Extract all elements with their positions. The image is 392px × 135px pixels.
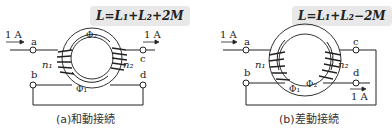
terminal-d: d: [353, 67, 360, 78]
caption-additive: (a)和動接続: [56, 110, 115, 126]
flux-phi1-label: Φ₁: [289, 84, 300, 94]
panel-additive-connection: L=L₁+L₂+2M: [0, 0, 193, 135]
terminal-b: b: [31, 69, 37, 80]
terminal-c: c: [353, 36, 359, 47]
terminal-d: d: [140, 69, 147, 80]
coil-n2-label: n₂: [123, 59, 133, 70]
terminal-c: c: [140, 53, 146, 64]
flux-phi1-label: Φ₁: [76, 84, 87, 94]
current-out-label: 1 A: [144, 29, 162, 40]
flux-phi2-label: Φ₂: [306, 79, 317, 89]
flux-phi2-label: Φ₂: [86, 30, 97, 40]
caption-differential: (b)差動接続: [279, 110, 339, 126]
coil-n1-label: n₁: [255, 59, 265, 70]
current-out-label: 1 A: [351, 91, 369, 102]
current-in-label: 1 A: [5, 29, 23, 40]
current-in-label: 1 A: [220, 29, 238, 40]
coil-n1-label: n₁: [42, 59, 52, 70]
terminal-a: a: [244, 36, 250, 47]
panel-differential-connection: L=L₁+L₂−2M 1 A 1: [193, 0, 386, 135]
terminal-b: b: [244, 67, 250, 78]
coil-n2-label: n₂: [338, 59, 348, 70]
terminal-a: a: [31, 36, 37, 47]
